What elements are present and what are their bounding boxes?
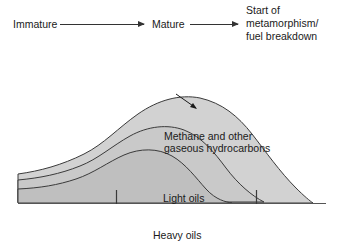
maturity-label-mature: Mature xyxy=(152,19,185,31)
annotation-heavy-oils: Heavy oils xyxy=(153,229,201,241)
maturity-sequence-strip: Immature Mature Start of metamorphism/ f… xyxy=(0,0,342,60)
maturity-label-start-of-metamorphism: Start of metamorphism/ fuel breakdown xyxy=(246,4,338,43)
maturity-label-immature: Immature xyxy=(13,19,57,31)
arrow-mature-to-metamorphism-icon xyxy=(190,24,238,25)
annotation-methane: Methane and other gaseous hydrocarbons xyxy=(164,130,284,154)
annotation-light-oils: Light oils xyxy=(163,192,204,204)
arrow-immature-to-mature-icon xyxy=(60,24,144,25)
hydrocarbon-generation-chart: Methane and other gaseous hydrocarbons L… xyxy=(0,58,342,249)
figure-root: Immature Mature Start of metamorphism/ f… xyxy=(0,0,342,249)
